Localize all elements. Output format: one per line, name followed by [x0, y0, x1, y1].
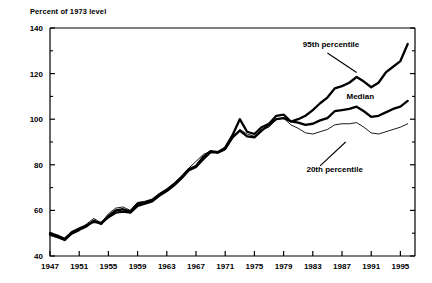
series-annotation: Median	[346, 92, 374, 101]
x-tick-label: 1975	[246, 262, 264, 271]
x-tick-label: 1955	[100, 262, 118, 271]
x-tick-label: 1979	[275, 262, 293, 271]
x-tick-label: 1959	[129, 262, 147, 271]
annotation-leader-line	[320, 142, 346, 166]
x-tick-label: 1963	[158, 262, 176, 271]
y-tick-label: 40	[34, 252, 43, 261]
y-tick-label: 80	[34, 161, 43, 170]
chart-figure: Percent of 1973 level 406080100120140194…	[0, 0, 432, 283]
x-tick-label: 1967	[187, 262, 205, 271]
x-tick-label: 1987	[333, 262, 351, 271]
y-tick-label: 120	[30, 70, 44, 79]
x-tick-label: 1971	[216, 262, 234, 271]
y-tick-label: 140	[30, 24, 44, 33]
x-tick-label: 1947	[41, 262, 59, 271]
axis-frame	[50, 28, 415, 256]
x-tick-label: 1951	[70, 262, 88, 271]
x-tick-label: 1995	[392, 262, 410, 271]
series-annotation: 20th percentile	[306, 165, 363, 174]
chart-plot-area: 4060801001201401947195119551959196319671…	[0, 0, 432, 283]
series-annotation: 95th percentile	[303, 40, 360, 49]
x-tick-label: 1983	[304, 262, 322, 271]
x-tick-label: 1991	[362, 262, 380, 271]
y-tick-label: 60	[34, 206, 43, 215]
y-tick-label: 100	[30, 115, 44, 124]
annotation-leader-line	[327, 53, 356, 72]
